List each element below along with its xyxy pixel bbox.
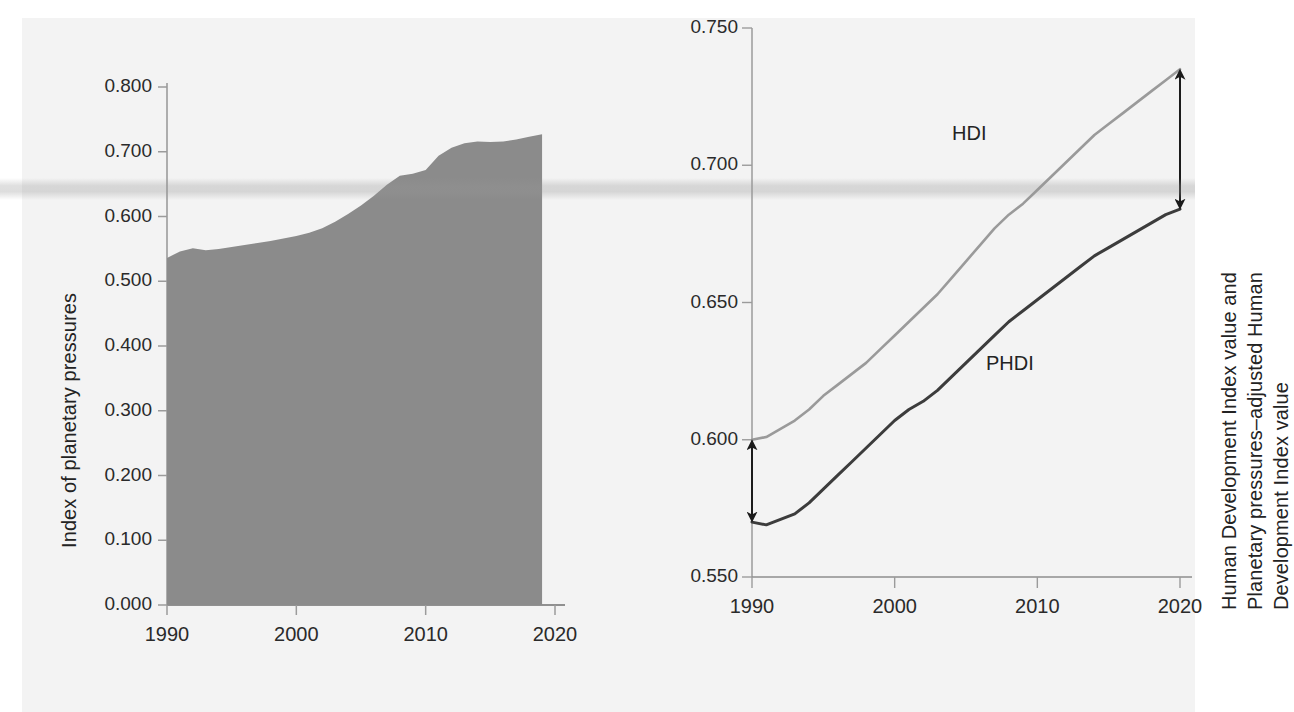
- series-label-hdi: HDI: [952, 122, 986, 145]
- right-y-axis-title-line-2: Development Index value: [1268, 272, 1294, 610]
- right-x-tick-label: 2010: [992, 595, 1082, 618]
- planetary-pressures-area: [167, 134, 542, 605]
- left-y-tick-label: 0.000: [60, 593, 152, 615]
- chart-hdi-phdi: Human Development Index value andPlaneta…: [600, 0, 1195, 712]
- right-x-tick-label: 1990: [707, 595, 797, 618]
- left-y-tick-label: 0.300: [60, 399, 152, 421]
- left-y-tick-label: 0.400: [60, 334, 152, 356]
- left-y-tick-label: 0.700: [60, 140, 152, 162]
- right-y-axis-title-line-0: Human Development Index value and: [1216, 272, 1242, 610]
- right-y-axis-title-line-1: Planetary pressures–adjusted Human: [1242, 272, 1268, 610]
- left-x-tick-label: 1990: [122, 623, 212, 646]
- left-x-tick-label: 2020: [510, 623, 600, 646]
- chart-planetary-pressures: Index of planetary pressures 0.0000.1000…: [0, 0, 600, 712]
- right-y-tick-label: 0.600: [646, 428, 738, 450]
- left-y-tick-label: 0.200: [60, 464, 152, 486]
- right-x-tick-label: 2020: [1135, 595, 1225, 618]
- left-x-tick-label: 2000: [251, 623, 341, 646]
- right-y-axis-title: Human Development Index value andPlaneta…: [1216, 272, 1294, 610]
- right-y-tick-label: 0.750: [646, 16, 738, 38]
- left-y-tick-label: 0.800: [60, 75, 152, 97]
- left-y-tick-label: 0.100: [60, 528, 152, 550]
- right-y-tick-label: 0.550: [646, 565, 738, 587]
- left-x-tick-label: 2010: [381, 623, 471, 646]
- right-x-tick-label: 2000: [850, 595, 940, 618]
- left-y-tick-label: 0.500: [60, 269, 152, 291]
- series-label-phdi: PHDI: [986, 352, 1034, 375]
- right-y-tick-label: 0.700: [646, 153, 738, 175]
- left-y-tick-label: 0.600: [60, 205, 152, 227]
- right-y-tick-label: 0.650: [646, 291, 738, 313]
- series-line-phdi: [752, 209, 1180, 525]
